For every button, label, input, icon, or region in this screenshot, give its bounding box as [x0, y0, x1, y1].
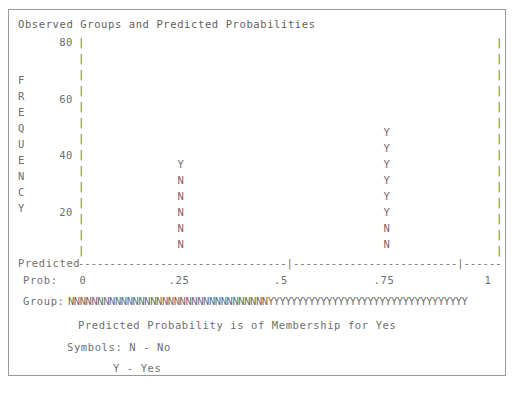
y-axis-tick-mark: |: [78, 146, 84, 162]
plot-border-mark: |: [496, 194, 502, 210]
plot-symbol-n: N: [174, 204, 188, 220]
plot-symbol-n: N: [174, 188, 188, 204]
plot-symbol-n: N: [174, 236, 188, 252]
classification-plot-frame: Observed Groups and Predicted Probabilit…: [8, 9, 506, 376]
y-axis-label-char: F: [18, 72, 25, 88]
x-tick-025: .25: [167, 272, 191, 288]
y-tick-40: 40: [43, 147, 73, 163]
x-tick-05: .5: [269, 272, 293, 288]
note-symbol-y: Y - Yes: [113, 360, 161, 376]
y-axis-tick-mark: |: [78, 66, 84, 82]
y-axis-tick-mark: |: [78, 178, 84, 194]
y-axis-label: FREQUENCY: [18, 72, 25, 216]
plot-border-mark: |: [496, 34, 502, 50]
page-title: Observed Groups and Predicted Probabilit…: [18, 16, 316, 32]
x-axis-label: Predicted: [18, 255, 80, 271]
y-axis-label-char: N: [18, 168, 25, 184]
plot-border-mark: |: [496, 98, 502, 114]
plot-symbol-n: N: [174, 172, 188, 188]
y-axis-tick-mark: |: [78, 114, 84, 130]
plot-symbol-y: Y: [380, 140, 394, 156]
plot-border-mark: |: [496, 130, 502, 146]
y-axis-tick-mark: |: [78, 50, 84, 66]
y-axis-label-char: E: [18, 152, 25, 168]
y-axis-tick-mark: |: [78, 130, 84, 146]
plot-symbol-y: Y: [380, 204, 394, 220]
y-axis-tick-mark: |: [78, 226, 84, 242]
plot-symbol-y: Y: [380, 188, 394, 204]
plot-symbol-y: Y: [380, 172, 394, 188]
y-axis-tick-mark: |: [78, 82, 84, 98]
y-axis-tick-mark: |: [78, 98, 84, 114]
plot-border-mark: |: [496, 50, 502, 66]
x-tick-1: 1: [476, 272, 500, 288]
y-axis-label-char: U: [18, 136, 25, 152]
x-tick-0: 0: [71, 272, 95, 288]
x-tick-075: .75: [372, 272, 396, 288]
plot-border-mark: |: [496, 146, 502, 162]
group-strip-label: Group:: [23, 293, 65, 309]
plot-border-mark: |: [496, 114, 502, 130]
y-axis-label-char: Q: [18, 120, 25, 136]
symbol-stack-left: YNNNNN: [174, 156, 188, 252]
y-axis-label-char: C: [18, 184, 25, 200]
x-axis-line: ---------------------------------|------…: [78, 255, 502, 271]
y-axis-label-char: E: [18, 104, 25, 120]
plot-border-mark: |: [496, 66, 502, 82]
plot-border-mark: |: [496, 178, 502, 194]
note-symbol-n: Symbols: N - No: [67, 339, 171, 355]
symbol-stack-right: YYYYYYNN: [380, 124, 394, 252]
y-axis-tick-mark: |: [78, 162, 84, 178]
x-axis-name: Prob:: [23, 272, 58, 288]
plot-symbol-n: N: [174, 220, 188, 236]
plot-border-mark: |: [496, 162, 502, 178]
note-membership: Predicted Probability is of Membership f…: [78, 317, 396, 333]
plot-symbol-n: N: [380, 220, 394, 236]
y-axis-label-char: Y: [18, 200, 25, 216]
plot-border-mark: |: [496, 226, 502, 242]
y-tick-60: 60: [43, 91, 73, 107]
plot-symbol-n: N: [380, 236, 394, 252]
y-tick-80: 80: [43, 34, 73, 50]
plot-symbol-y: Y: [380, 156, 394, 172]
group-strip: NNNNNNNNNNNNNNNNNNNNNNNNNNNNNNNNNNYYYYYY…: [68, 293, 467, 309]
y-tick-20: 20: [43, 204, 73, 220]
plot-border-mark: |: [496, 82, 502, 98]
y-axis-tick-mark: |: [78, 210, 84, 226]
y-axis-tick-mark: |: [78, 194, 84, 210]
plot-symbol-y: Y: [174, 156, 188, 172]
y-axis-label-char: R: [18, 88, 25, 104]
plot-symbol-y: Y: [380, 124, 394, 140]
y-axis-tick-mark: |: [78, 34, 84, 50]
plot-border-mark: |: [496, 210, 502, 226]
